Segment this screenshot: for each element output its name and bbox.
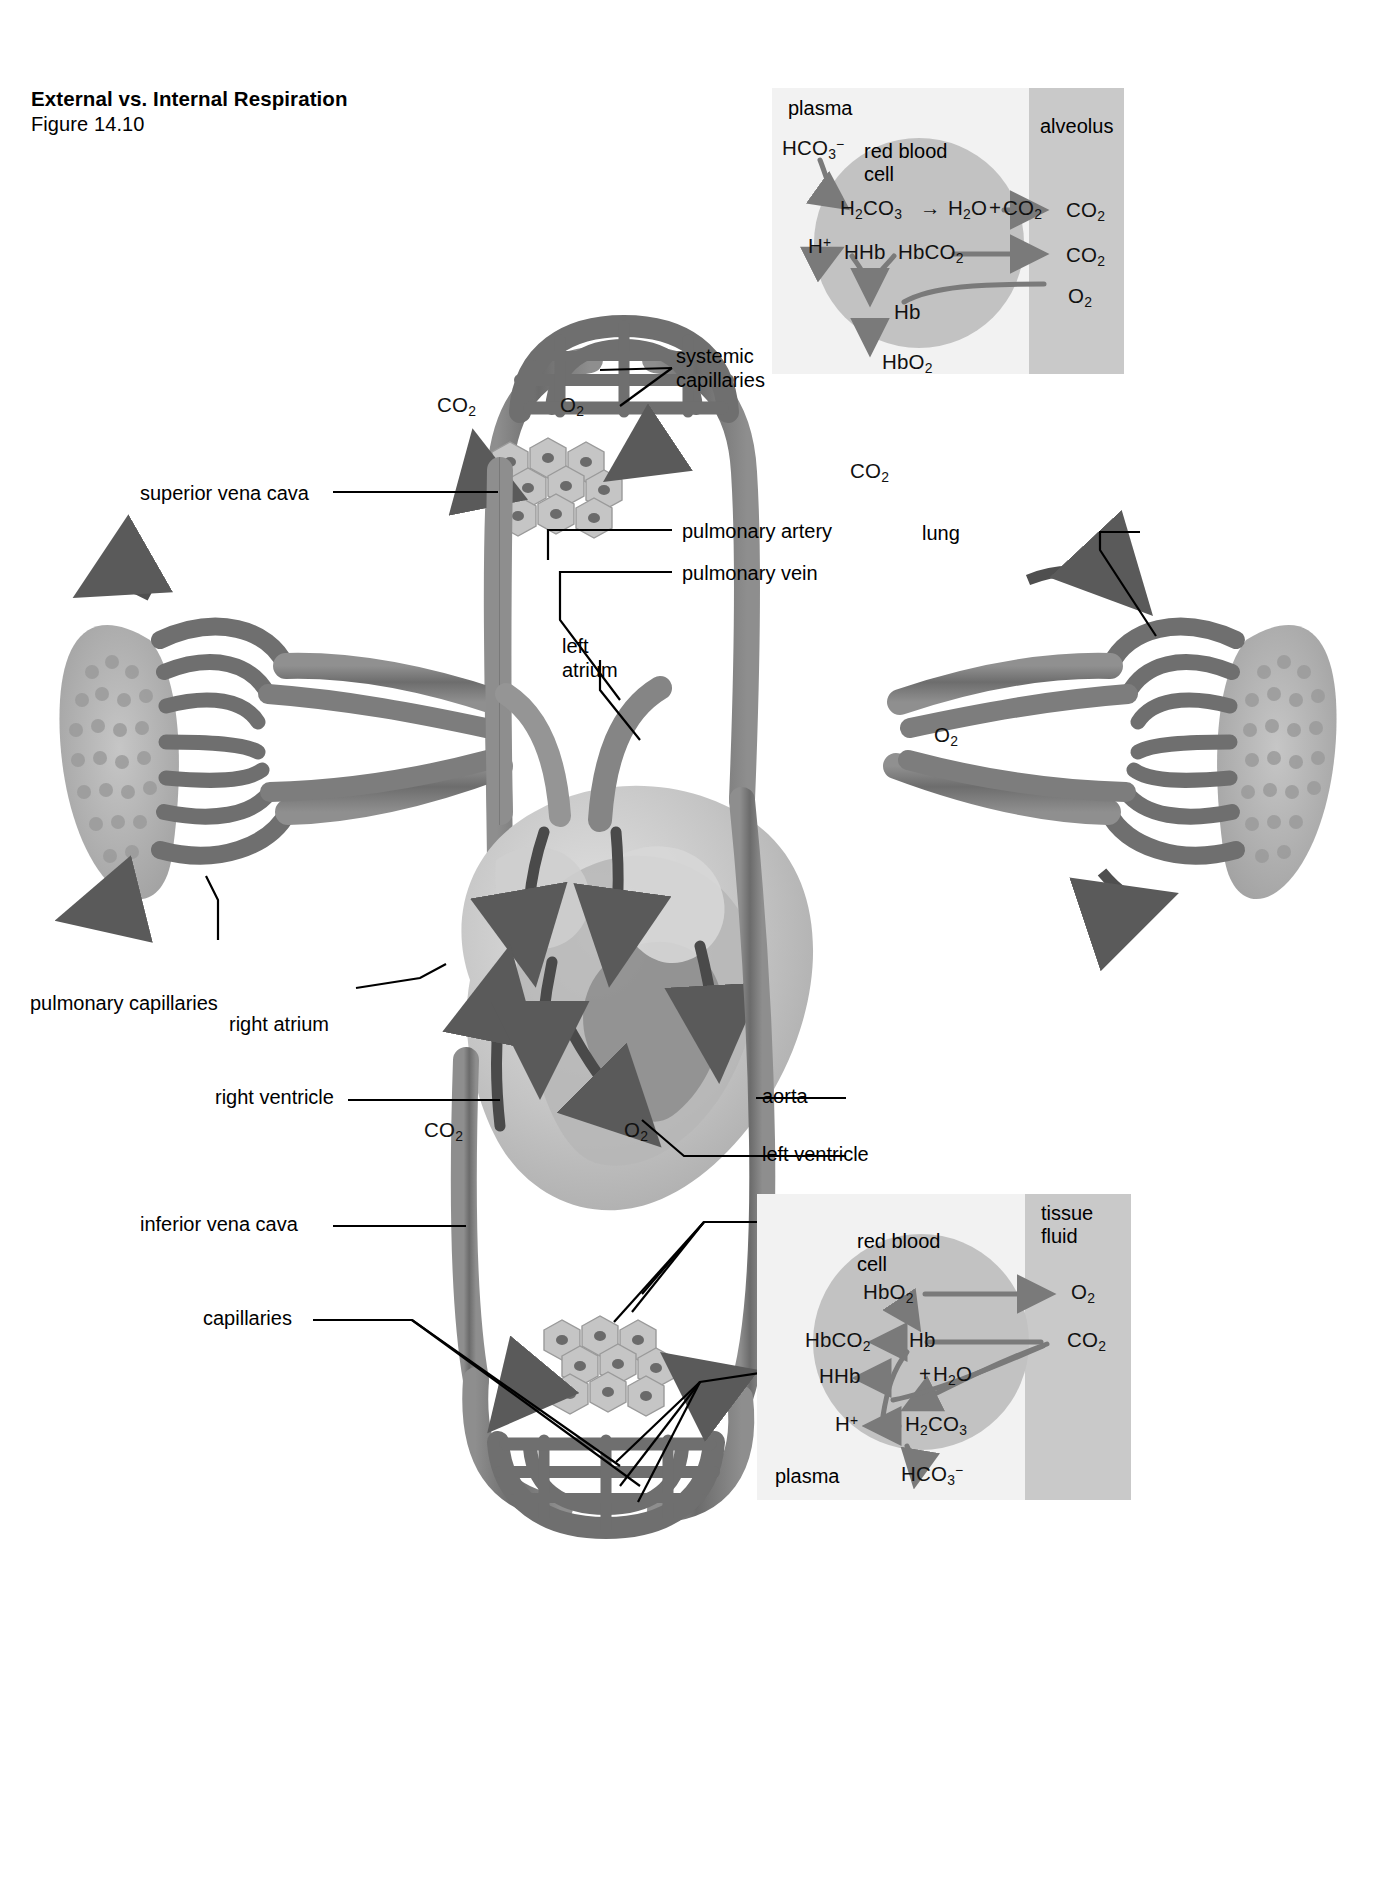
label-aorta: aorta — [762, 1084, 808, 1108]
external-alveolus-label: alveolus — [1040, 114, 1113, 138]
internal-plasma-label: plasma — [775, 1464, 839, 1488]
internal-carbonic-acid: H2CO3 — [905, 1412, 967, 1438]
internal-oxyhemoglobin: HbO2 — [863, 1280, 914, 1306]
internal-tissue-fluid-line2: fluid — [1041, 1225, 1078, 1247]
label-pulmonary-capillaries: pulmonary capillaries — [30, 991, 218, 1015]
internal-deoxyhemoglobin: HHb — [819, 1364, 861, 1388]
label-right-atrium: right atrium — [229, 1012, 329, 1036]
external-water-plus-co2: H2O + CO2 — [948, 196, 1042, 222]
gas-label-co2-lower-tissue: CO2 — [424, 1118, 463, 1144]
label-lung: lung — [922, 521, 960, 545]
gas-label-o2-lower-tissue: O2 — [624, 1118, 648, 1144]
label-superior-vena-cava: superior vena cava — [140, 481, 309, 505]
external-carbonic-acid: H2CO3 — [840, 196, 902, 222]
internal-rbc-label: red blood cell — [857, 1230, 940, 1276]
internal-plus-water: + H2O — [919, 1362, 972, 1388]
internal-co2-in: CO2 — [1067, 1328, 1106, 1354]
gas-label-o2-lung: O2 — [934, 723, 958, 749]
label-left-atrium-line2: atrium — [562, 659, 618, 681]
external-reaction-arrow: → — [920, 196, 941, 220]
external-bicarbonate: HCO3− — [782, 136, 844, 162]
label-left-atrium: left atrium — [562, 634, 682, 683]
external-rbc-label: red blood cell — [864, 140, 947, 186]
gas-label-co2-lung: CO2 — [850, 459, 889, 485]
internal-rbc-label-line2: cell — [857, 1253, 887, 1275]
internal-rbc-label-line1: red blood — [857, 1230, 940, 1252]
external-co2-out-upper: CO2 — [1066, 198, 1105, 224]
label-systemic-capillaries-top-line2: capillaries — [676, 369, 765, 391]
inset-external-respiration: plasma alveolus red blood cell HCO3− H+ … — [772, 88, 1124, 374]
external-co2-out-lower: CO2 — [1066, 243, 1105, 269]
external-deoxyhemoglobin: HHb — [844, 240, 886, 264]
lower-systemic-circuit — [475, 1316, 741, 1528]
internal-carbaminohemoglobin: HbCO2 — [805, 1328, 871, 1354]
label-right-ventricle: right ventricle — [215, 1085, 334, 1109]
inset-internal-respiration: plasma tissue fluid red blood cell HbO2 … — [757, 1194, 1131, 1500]
label-systemic-capillaries-top-line1: systemic — [676, 345, 754, 367]
label-inferior-vena-cava: inferior vena cava — [140, 1212, 298, 1236]
external-carbaminohemoglobin: HbCO2 — [898, 240, 964, 266]
internal-bicarbonate: HCO3− — [901, 1462, 963, 1488]
right-lung-group — [896, 571, 1337, 901]
external-oxyhemoglobin: HbO2 — [882, 350, 933, 376]
external-rbc-label-line1: red blood — [864, 140, 947, 162]
gas-label-o2-upper-tissue: O2 — [560, 393, 584, 419]
label-left-ventricle: left ventricle — [762, 1142, 869, 1166]
internal-tissue-fluid-label: tissue fluid — [1041, 1202, 1093, 1248]
gas-label-co2-upper-tissue: CO2 — [437, 393, 476, 419]
internal-proton: H+ — [835, 1412, 858, 1436]
figure-canvas: External vs. Internal Respiration Figure… — [0, 0, 1397, 1897]
lower-tissue-cell-cluster — [544, 1316, 674, 1416]
internal-o2-out: O2 — [1071, 1280, 1095, 1306]
external-o2-in: O2 — [1068, 284, 1092, 310]
circulatory-system-illustration — [0, 0, 1397, 1897]
left-lung-group — [59, 583, 500, 916]
external-proton: H+ — [808, 234, 831, 258]
label-pulmonary-vein: pulmonary vein — [682, 561, 818, 585]
label-pulmonary-artery: pulmonary artery — [682, 519, 832, 543]
internal-tissue-fluid-line1: tissue — [1041, 1202, 1093, 1224]
label-left-atrium-line1: left — [562, 635, 589, 657]
external-plasma-label: plasma — [788, 96, 852, 120]
external-hemoglobin: Hb — [894, 300, 921, 324]
external-rbc-label-line2: cell — [864, 163, 894, 185]
internal-hemoglobin: Hb — [909, 1328, 936, 1352]
label-capillaries: capillaries — [203, 1306, 292, 1330]
